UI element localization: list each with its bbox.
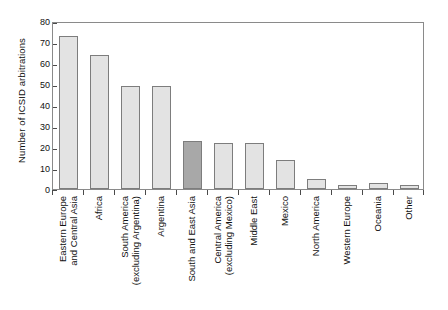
bar [307,179,326,190]
y-axis-title-text: Number of ICSID arbitrations [16,38,27,163]
x-axis-category-label-text: Other [403,196,414,220]
y-axis-tick-mark [53,65,57,66]
bar [183,141,202,189]
x-axis-category-label: Argentina [145,196,176,308]
plot-area [52,22,424,190]
y-axis-tick-label: 30 [40,122,50,132]
bar [245,143,264,189]
bar [90,55,109,189]
bar [152,86,171,189]
x-axis-tick-mark [423,190,424,195]
y-axis-tick-label: 10 [40,164,50,174]
y-axis-tick-mark [53,23,57,24]
y-axis-tick-mark [53,44,57,45]
bar-series [53,23,423,189]
x-axis-category-label-text: Eastern Europeand Central Asia [57,196,78,266]
x-axis-category-label: Mexico [269,196,300,308]
x-axis-category-label: North America [300,196,331,308]
x-axis-category-label: South America(excluding Argentina) [114,196,145,308]
x-axis-tick-mark [238,190,239,195]
bar [121,86,140,189]
y-axis-tick-label: 40 [40,101,50,111]
x-axis-tick-mark [145,190,146,195]
bar [276,160,295,189]
y-axis-tick-label: 50 [40,80,50,90]
x-axis-category-label-text: North America [310,196,321,256]
y-axis-tick-mark [53,128,57,129]
x-axis-tick-mark [269,190,270,195]
x-axis-tick-mark [393,190,394,195]
x-axis-category-label: South and East Asia [176,196,207,308]
x-axis-category-label-text: Argentina [155,196,166,237]
x-axis-tick-mark [52,190,53,195]
y-axis-tick-mark [53,149,57,150]
y-axis-tick-mark [53,107,57,108]
x-axis-category-label: Western Europe [331,196,362,308]
bar [400,185,419,189]
y-axis-tick-mark [53,170,57,171]
bar [214,143,233,189]
x-axis-tick-mark [207,190,208,195]
y-axis-tick-label: 80 [40,17,50,27]
x-axis-category-label-text: South and East Asia [186,196,197,282]
y-axis-tick-label: 70 [40,38,50,48]
x-axis-category-label-text: Central America(excluding Mexico) [212,196,233,275]
x-axis-tick-mark [83,190,84,195]
y-axis-tick-label: 0 [45,185,50,195]
x-axis-tick-mark [300,190,301,195]
y-axis-tick-label: 20 [40,143,50,153]
x-axis-tick-mark [176,190,177,195]
y-axis-tick-labels: 01020304050607080 [28,22,50,190]
y-axis-tick-label: 60 [40,59,50,69]
x-axis-category-label: Oceania [362,196,393,308]
x-axis-category-labels: Eastern Europeand Central AsiaAfricaSout… [52,196,424,308]
bar [59,36,78,189]
x-axis-category-label: Middle East [238,196,269,308]
x-axis-category-label: Other [393,196,424,308]
x-axis-tick-mark [362,190,363,195]
y-axis-tick-mark [53,86,57,87]
x-axis-category-label: Africa [83,196,114,308]
x-axis-category-label-text: South America(excluding Argentina) [119,196,140,285]
x-axis-tick-mark [331,190,332,195]
x-axis-category-label: Eastern Europeand Central Asia [52,196,83,308]
x-axis-ticks [52,190,424,195]
x-axis-category-label-text: Mexico [279,196,290,226]
x-axis-category-label: Central America(excluding Mexico) [207,196,238,308]
bar [369,183,388,189]
x-axis-tick-mark [114,190,115,195]
x-axis-category-label-text: Western Europe [341,196,352,264]
x-axis-category-label-text: Middle East [248,196,259,246]
x-axis-category-label-text: Oceania [372,196,383,231]
plot-inner [53,23,423,189]
x-axis-category-label-text: Africa [93,196,104,220]
bar [338,185,357,189]
bar-chart-figure: Number of ICSID arbitrations 01020304050… [0,0,448,310]
